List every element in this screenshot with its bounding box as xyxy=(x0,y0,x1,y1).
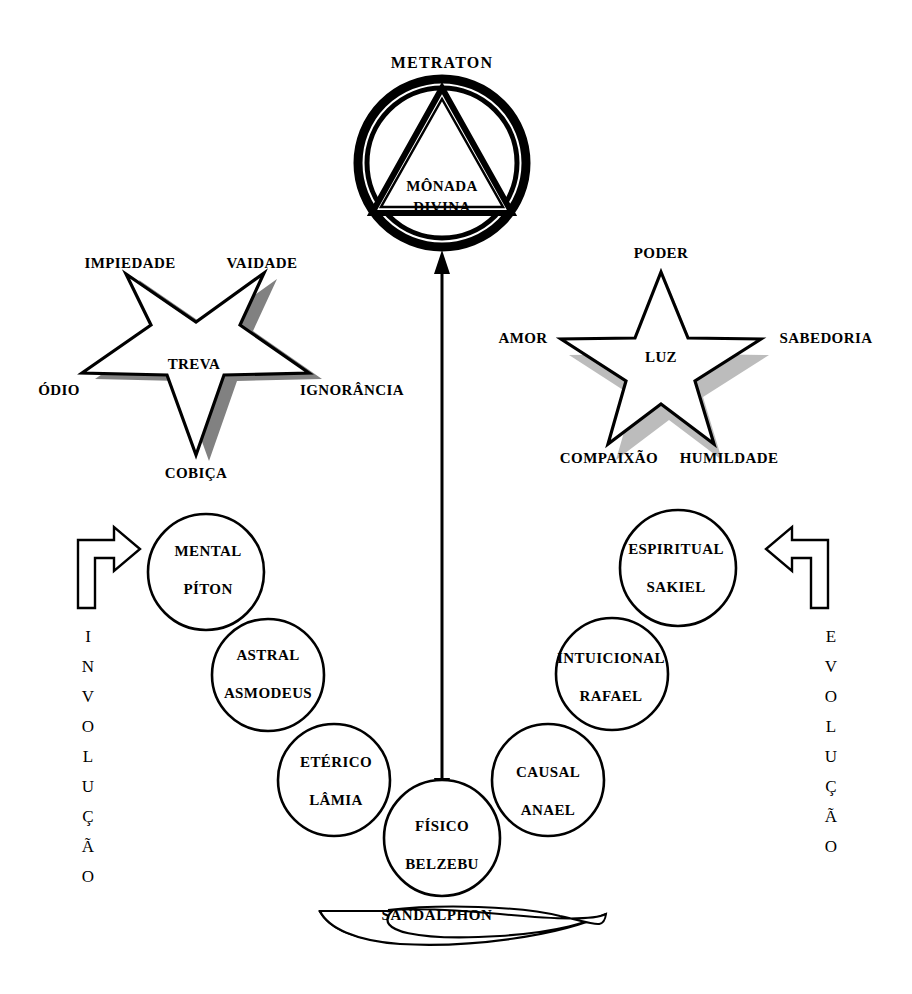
light-star-point-sabedoria: SABEDORIA xyxy=(780,330,873,347)
circle-fisico-plane: FÍSICO xyxy=(415,810,469,842)
vertical-letter-6: Ã xyxy=(818,802,844,832)
dark-star-point-odio: ÓDIO xyxy=(38,382,80,399)
vertical-letter-2: O xyxy=(818,682,844,712)
vertical-letter-7: O xyxy=(818,832,844,862)
circle-astral xyxy=(212,619,324,731)
vertical-letter-5: U xyxy=(75,772,101,802)
evolucao-vertical-label: EVOLUÇÃO xyxy=(818,622,844,862)
involucao-arrow-icon xyxy=(78,527,140,608)
circle-intuicional-entity: RAFAEL xyxy=(580,680,643,712)
vertical-letter-3: O xyxy=(75,712,101,742)
diagram-vector-layer xyxy=(0,0,912,994)
circle-eterico-plane: ETÉRICO xyxy=(300,746,372,778)
dark-star-point-impiedade: IMPIEDADE xyxy=(84,255,175,272)
light-star-group xyxy=(561,272,769,460)
dark-star-center-label: TREVA xyxy=(168,356,221,373)
vertical-arrow-head-up xyxy=(434,250,450,274)
involucao-vertical-label: INVOLUÇÃO xyxy=(75,622,101,892)
vertical-letter-4: L xyxy=(75,742,101,772)
circle-eterico-entity: LÂMIA xyxy=(309,784,363,816)
vertical-letter-5: Ç xyxy=(818,772,844,802)
vertical-letter-1: V xyxy=(818,652,844,682)
sandalphon-label: SANDALPHON xyxy=(381,907,492,924)
evolucao-arrow-shape xyxy=(766,527,828,608)
circle-mental xyxy=(148,514,264,630)
vertical-letter-0: E xyxy=(818,622,844,652)
vertical-double-arrow xyxy=(434,250,450,802)
circle-eterico xyxy=(278,724,390,836)
monada-divina-line2: DIVINA xyxy=(413,197,470,217)
circle-astral-entity: ASMODEUS xyxy=(224,677,312,709)
metraton-label: METRATON xyxy=(391,54,493,72)
involucao-arrow-shape xyxy=(78,527,140,608)
vertical-letter-3: L xyxy=(818,712,844,742)
dark-star-point-ignorancia: IGNORÂNCIA xyxy=(300,382,404,399)
circle-causal-plane: CAUSAL xyxy=(516,756,580,788)
vertical-letter-4: U xyxy=(818,742,844,772)
monada-divina-line1: MÔNADA xyxy=(406,176,478,196)
circle-espiritual-plane: ESPIRITUAL xyxy=(628,533,724,565)
vertical-letter-1: N xyxy=(75,652,101,682)
dark-star-point-cobica: COBIÇA xyxy=(165,465,227,482)
circle-fisico-entity: BELZEBU xyxy=(405,848,479,880)
circle-intuicional-plane: INTUICIONAL xyxy=(557,642,665,674)
circle-mental-entity: PÍTON xyxy=(183,573,232,605)
metraton-symbol xyxy=(358,79,526,247)
circle-espiritual-entity: SAKIEL xyxy=(646,571,705,603)
vertical-letter-7: Ã xyxy=(75,832,101,862)
dark-star-point-vaidade: VAIDADE xyxy=(227,255,298,272)
circle-astral-plane: ASTRAL xyxy=(236,639,299,671)
diagram-canvas: METRATON MÔNADA DIVINA IMPIEDADE VAIDADE… xyxy=(0,0,912,994)
vertical-letter-8: O xyxy=(75,862,101,892)
circle-mental-plane: MENTAL xyxy=(174,535,241,567)
light-star-point-compaixao: COMPAIXÃO xyxy=(560,450,658,467)
circle-intuicional xyxy=(556,618,668,730)
circle-espiritual xyxy=(620,510,736,626)
vertical-letter-0: I xyxy=(75,622,101,652)
light-star-point-poder: PODER xyxy=(634,245,689,262)
light-star-point-humildade: HUMILDADE xyxy=(680,450,779,467)
evolucao-arrow-icon xyxy=(766,527,828,608)
circle-causal-entity: ANAEL xyxy=(521,794,576,826)
vertical-letter-6: Ç xyxy=(75,802,101,832)
light-star-point-amor: AMOR xyxy=(498,330,547,347)
light-star-center-label: LUZ xyxy=(645,349,677,366)
vertical-letter-2: V xyxy=(75,682,101,712)
